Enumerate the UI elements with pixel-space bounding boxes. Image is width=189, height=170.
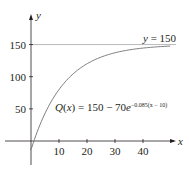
curve-q [30,46,170,150]
x-tick-label: 20 [82,145,94,157]
y-tick-label: 150 [10,39,27,51]
x-tick-label: 30 [110,145,122,157]
x-axis-label: x [177,135,183,147]
x-tick-label: 40 [138,145,150,157]
y-tick-label: 100 [10,71,27,83]
x-axis-arrow-icon [170,139,176,143]
y-ticks: 50100150 [10,39,34,115]
x-ticks: 10203040 [54,139,150,157]
y-axis-arrow-icon [29,14,33,20]
y-tick-label: 50 [15,103,27,115]
asymptote-label: y = 150 [142,32,177,44]
formula-label: Q(x) = 150 − 70e−0.085(x − 10) [55,101,167,114]
x-tick-label: 10 [54,145,66,157]
plot-area: 10203040 50100150 x y y = 150 Q(x) = 150… [0,0,189,170]
chart: 10203040 50100150 x y y = 150 Q(x) = 150… [0,0,189,170]
y-axis-label: y [35,9,41,21]
